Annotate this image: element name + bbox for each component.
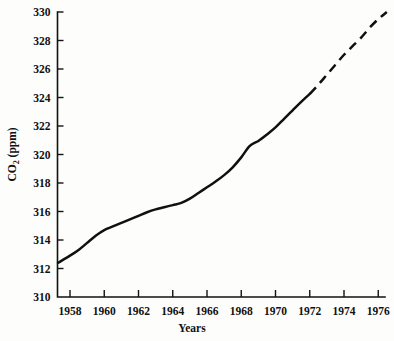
y-tick-label: 330	[33, 6, 51, 18]
x-tick-label: 1962	[127, 305, 150, 317]
x-tick-label: 1972	[298, 305, 321, 317]
x-tick-label: 1976	[367, 305, 390, 317]
co2-measured-curve	[58, 94, 310, 263]
y-tick-label: 324	[33, 92, 51, 104]
y-tick-labels: 310312314316318320322324326328330	[33, 6, 51, 303]
x-tick-label: 1974	[333, 305, 356, 317]
x-tick-labels: 1958196019621964196619681970197219741976	[59, 305, 391, 317]
y-tick-label: 326	[33, 63, 51, 75]
x-tick-label: 1968	[230, 305, 253, 317]
y-tick-label: 318	[33, 177, 51, 189]
y-axis-title-base: CO	[6, 164, 18, 181]
x-tick-label: 1966	[196, 305, 219, 317]
y-axis-title: CO2 (ppm)	[6, 127, 21, 181]
tick-marks	[58, 12, 379, 297]
chart-page: 310312314316318320322324326328330 195819…	[0, 0, 394, 341]
axes	[58, 12, 386, 297]
y-tick-label: 314	[33, 234, 51, 246]
y-tick-label: 310	[33, 291, 51, 303]
y-tick-label: 316	[33, 206, 51, 218]
x-tick-label: 1960	[93, 305, 116, 317]
data-curves	[58, 12, 387, 263]
x-tick-label: 1964	[161, 305, 184, 317]
y-tick-label: 320	[33, 149, 51, 161]
co2-projected-curve	[310, 12, 387, 94]
co2-line-chart: 310312314316318320322324326328330 195819…	[0, 0, 394, 341]
x-tick-label: 1970	[264, 305, 287, 317]
y-tick-label: 322	[33, 120, 51, 132]
y-tick-label: 328	[33, 35, 51, 47]
y-axis-title-unit: (ppm)	[6, 127, 19, 160]
x-tick-label: 1958	[59, 305, 82, 317]
y-tick-label: 312	[33, 263, 51, 275]
x-axis-title: Years	[178, 322, 206, 334]
axis-spines	[58, 12, 386, 297]
